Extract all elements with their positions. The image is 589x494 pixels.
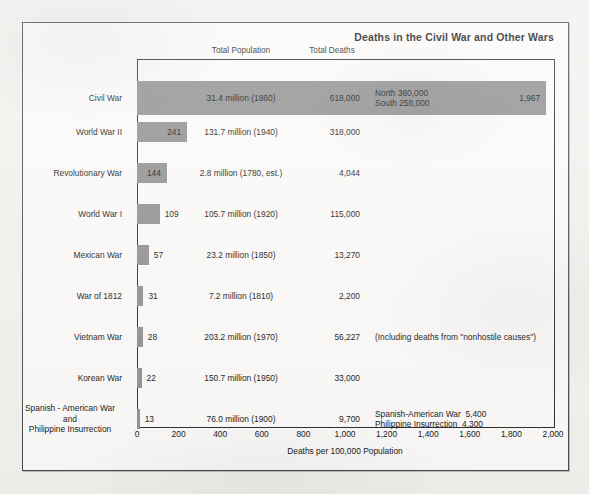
table-row[interactable]: Vietnam War28203.2 million (1970)56,227(… [23,327,568,357]
table-row[interactable]: World War I109105.7 million (1920)115,00… [23,204,568,234]
chart-outer-frame: Deaths in the Civil War and Other Wars T… [22,22,569,471]
x-tick-1600: 1,600 [459,429,480,439]
cell-note-7: (Including deaths from "nonhostile cause… [375,332,536,343]
note-line: (Including deaths from "nonhostile cause… [375,332,536,342]
x-tick-1000: 1,000 [335,429,356,439]
x-tick-1200: 1,200 [376,429,397,439]
x-tick-200: 200 [172,429,186,439]
x-axis: Deaths per 100,000 Population 0200400600… [23,426,568,470]
x-tick-1400: 1,400 [418,429,439,439]
x-tick-1800: 1,800 [501,429,522,439]
cell-total-deaths-8: 33,000 [23,373,360,383]
cell-total-deaths-7: 56,227 [23,332,360,342]
cell-total-deaths-9: 9,700 [23,414,360,424]
table-row[interactable]: Civil War1,96731.4 million (1860)618,000… [23,81,568,115]
cell-total-deaths-2: 318,000 [23,127,360,137]
row-label-line: Spanish - American War [25,403,115,413]
x-tick-2000: 2,000 [543,429,564,439]
note-line: North 360,000 [375,88,428,98]
column-header-total-deaths: Total Deaths [309,46,355,55]
cell-total-deaths-3: 4,044 [23,168,360,178]
x-axis-title: Deaths per 100,000 Population [287,446,402,456]
x-tick-400: 400 [213,429,227,439]
bar-rows-container: Civil War1,96731.4 million (1860)618,000… [23,59,568,426]
table-row[interactable]: Mexican War5723.2 million (1850)13,270 [23,245,568,275]
x-tick-0: 0 [135,429,140,439]
table-row[interactable]: World War II241131.7 million (1940)318,0… [23,122,568,152]
note-line: Spanish-American War 5,400 [375,409,486,419]
table-row[interactable]: War of 1812317.2 million (1810)2,200 [23,286,568,316]
table-row[interactable]: Korean War22150.7 million (1950)33,000 [23,368,568,398]
cell-total-deaths-4: 115,000 [23,209,360,219]
note-line: South 258,000 [375,98,430,108]
column-header-total-population: Total Population [212,46,270,55]
cell-total-deaths-6: 2,200 [23,291,360,301]
chart-title: Deaths in the Civil War and Other Wars [354,31,554,43]
table-row[interactable]: Revolutionary War1442.8 million (1780, e… [23,163,568,193]
x-tick-800: 800 [296,429,310,439]
cell-note-1: North 360,000South 258,000 [375,88,430,109]
bar-value-1: 1,967 [519,93,540,103]
cell-total-deaths-5: 13,270 [23,250,360,260]
x-tick-600: 600 [255,429,269,439]
cell-total-deaths-1: 618,000 [23,93,360,103]
